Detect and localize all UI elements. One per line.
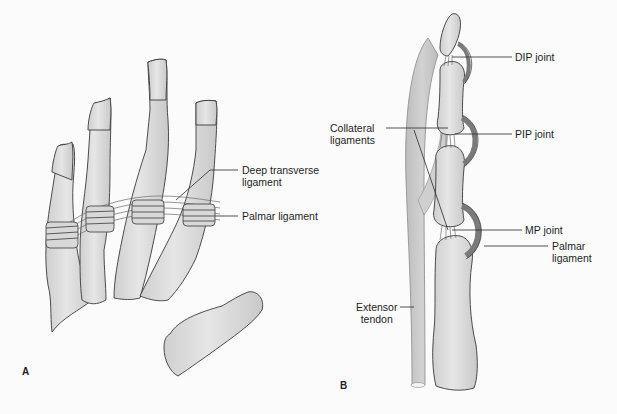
label-deep-transverse-line1: Deep transverse bbox=[242, 164, 319, 176]
label-pip-joint: PIP joint bbox=[515, 128, 554, 140]
label-extensor-line2: tendon bbox=[356, 313, 397, 325]
label-deep-transverse-line2: ligament bbox=[242, 176, 319, 188]
label-collateral-line2: ligaments bbox=[330, 134, 375, 146]
palmar-ligament-little bbox=[46, 222, 78, 248]
label-dip-joint: DIP joint bbox=[515, 51, 555, 63]
index-finger-tip bbox=[196, 100, 217, 125]
palmar-ligament-ring bbox=[86, 206, 114, 232]
label-collateral-ligaments: Collateral ligaments bbox=[330, 122, 375, 146]
label-deep-transverse-ligament: Deep transverse ligament bbox=[242, 164, 319, 188]
thumb-bones bbox=[164, 292, 263, 376]
proximal-phalanx bbox=[433, 146, 464, 227]
panel-b-finger bbox=[406, 14, 482, 391]
label-palmar-b-line1: Palmar bbox=[552, 240, 592, 252]
label-collateral-line1: Collateral bbox=[330, 122, 375, 134]
panel-letter-b: B bbox=[340, 380, 347, 391]
palmar-ligament-index bbox=[183, 204, 215, 226]
label-mp-joint: MP joint bbox=[525, 224, 563, 236]
distal-phalanx bbox=[440, 14, 461, 56]
middle-finger-tip bbox=[148, 59, 167, 100]
label-extensor-line1: Extensor bbox=[356, 301, 397, 313]
extensor-tendon-end bbox=[411, 383, 425, 388]
anatomy-figure: Deep transverse ligament Palmar ligament… bbox=[0, 0, 617, 414]
palmar-ligament-middle bbox=[132, 200, 164, 224]
label-palmar-ligament-b: Palmar ligament bbox=[552, 240, 592, 264]
metacarpal bbox=[433, 236, 478, 391]
extensor-tendon bbox=[406, 38, 438, 385]
panel-letter-a: A bbox=[22, 366, 29, 377]
label-palmar-b-line2: ligament bbox=[552, 252, 592, 264]
label-palmar-ligament-a: Palmar ligament bbox=[242, 210, 318, 222]
middle-phalanx bbox=[437, 61, 464, 134]
label-extensor-tendon: Extensor tendon bbox=[356, 301, 397, 325]
ring-finger-tip bbox=[88, 98, 111, 130]
